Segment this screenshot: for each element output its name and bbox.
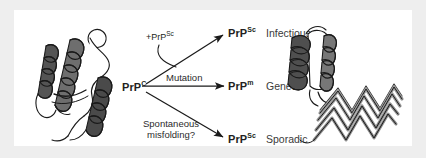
curved-connector-icon: [158, 45, 176, 67]
condition-sporadic-line2: misfolding?: [132, 129, 210, 140]
condition-infectious: +PrPSc: [146, 30, 174, 42]
condition-sporadic: Spontaneous misfolding?: [132, 118, 210, 140]
product-sporadic: PrPSc: [228, 132, 256, 145]
product-infectious: PrPSc: [228, 26, 256, 39]
condition-genetic: Mutation: [166, 72, 202, 83]
figure-panel: PrPC +PrPSc Mutation Spontaneous misfold…: [14, 10, 412, 146]
prpc-structure: [24, 16, 134, 146]
prpsc-structure: [280, 18, 408, 146]
product-genetic: PrPm: [228, 79, 254, 92]
prpc-label: PrPC: [122, 80, 146, 93]
condition-sporadic-line1: Spontaneous: [132, 118, 210, 129]
